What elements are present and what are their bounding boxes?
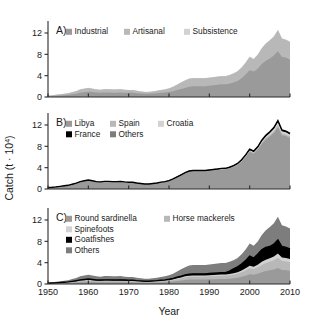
legend-label: Spinefoots (75, 224, 114, 234)
legend-swatch (110, 121, 116, 127)
legend-swatch (66, 247, 72, 253)
legend-swatch (184, 29, 190, 35)
legend-label: France (75, 129, 101, 139)
x-tick-label: 2000 (240, 287, 260, 297)
legend-swatch (66, 226, 72, 232)
panel-letter: C) (56, 211, 67, 223)
legend-swatch (66, 237, 72, 243)
legend-swatch (66, 121, 72, 127)
legend-label: Goatfishes (75, 234, 115, 244)
y-tick-label: 4 (37, 163, 42, 173)
legend-label: Artisanal (133, 26, 165, 36)
x-axis-title: Year (158, 305, 180, 317)
panel-letter: B) (56, 116, 67, 128)
legend-label: Horse mackerels (173, 213, 235, 223)
y-tick-label: 0 (37, 92, 42, 102)
y-tick-label: 12 (32, 215, 42, 225)
panel-letter: A) (56, 24, 67, 36)
legend-label: Libya (75, 118, 95, 128)
x-tick-label: 1950 (38, 287, 58, 297)
panel-a: 04812A)IndustrialArtisanalSubsistence (32, 21, 290, 102)
legend-label: Round sardinella (75, 213, 138, 223)
legend-swatch (164, 216, 170, 222)
x-tick-label: 1980 (159, 287, 179, 297)
legend-label: Spain (119, 118, 141, 128)
y-axis-title: Catch (t · 104) (3, 135, 15, 200)
y-tick-label: 0 (37, 184, 42, 194)
y-tick-label: 8 (37, 142, 42, 152)
y-tick-label: 8 (37, 237, 42, 247)
legend-label: Subsistence (193, 26, 239, 36)
panel-c: 048121950196019701980199020002010C)Round… (32, 208, 300, 297)
panel-b: 04812B)LibyaSpainCroatiaFranceOthers (32, 113, 290, 194)
x-tick-label: 2010 (280, 287, 300, 297)
y-tick-label: 12 (32, 28, 42, 38)
x-tick-label: 1990 (199, 287, 219, 297)
legend-label: Industrial (75, 26, 109, 36)
legend-label: Others (75, 245, 100, 255)
y-tick-label: 4 (37, 258, 42, 268)
legend-swatch (66, 131, 72, 137)
legend-label: Others (119, 129, 144, 139)
legend-swatch (124, 29, 130, 35)
svg-text:Catch (t · 104): Catch (t · 104) (3, 135, 15, 200)
catch-timeseries-chart: 04812A)IndustrialArtisanalSubsistence048… (0, 0, 316, 328)
legend-label: Croatia (167, 118, 194, 128)
y-tick-label: 12 (32, 120, 42, 130)
y-tick-label: 8 (37, 50, 42, 60)
legend-swatch (66, 29, 72, 35)
x-tick-label: 1960 (78, 287, 98, 297)
x-tick-label: 1970 (119, 287, 139, 297)
figure-container: 04812A)IndustrialArtisanalSubsistence048… (0, 0, 316, 328)
legend-swatch (158, 121, 164, 127)
y-tick-label: 4 (37, 71, 42, 81)
legend-swatch (66, 216, 72, 222)
legend-swatch (110, 131, 116, 137)
